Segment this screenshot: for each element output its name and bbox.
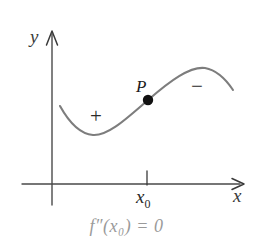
x-axis-label: x [233,186,241,205]
concave-down-minus-sign: − [191,76,203,97]
caption-second-derivative-equation: f″(x₀) = 0 [0,216,253,237]
concave-up-plus-sign: + [90,106,102,127]
y-axis-label: y [30,27,38,46]
x0-tick-label-subscript: 0 [144,197,150,211]
point-label-p: P [136,78,146,95]
inflection-point-dot [143,95,153,105]
x0-tick-label: x0 [136,187,150,210]
figure-container: y x P + − x0 f″(x₀) = 0 [0,0,253,250]
